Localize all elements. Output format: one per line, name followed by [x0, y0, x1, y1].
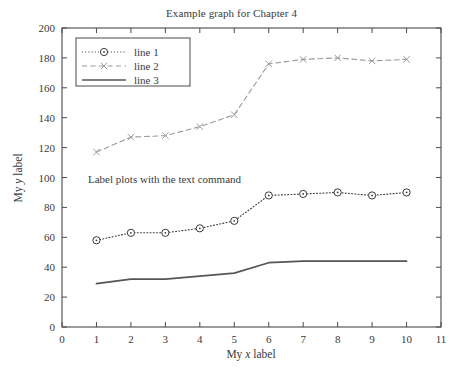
x-tick-label: 5 [232, 333, 238, 345]
series-3 [96, 261, 406, 283]
y-tick-label: 20 [44, 291, 56, 303]
legend-label: line 2 [134, 60, 159, 72]
x-tick-label: 4 [197, 333, 203, 345]
y-tick-label: 80 [44, 201, 56, 213]
y-tick-label: 60 [44, 231, 56, 243]
data-series-layer [93, 55, 410, 284]
x-tick-label: 10 [401, 333, 413, 345]
y-tick-label: 180 [39, 52, 56, 64]
y-tick-label: 0 [50, 321, 56, 333]
legend-label: line 3 [134, 74, 159, 86]
y-tick-label: 120 [39, 142, 56, 154]
x-tick-label: 3 [163, 333, 169, 345]
y-axis-tick-labels: 020406080100120140160180200 [39, 22, 56, 333]
plot-area: 01234567891011 0204060801001201401601802… [0, 0, 463, 369]
x-tick-label: 8 [335, 333, 341, 345]
y-axis-title: My y label [12, 153, 25, 202]
x-axis-title: My x label [226, 348, 275, 361]
y-tick-label: 200 [39, 22, 56, 34]
x-tick-label: 2 [128, 333, 134, 345]
plot-annotation: Label plots with the text command [88, 173, 242, 185]
x-tick-label: 6 [266, 333, 272, 345]
chart-figure: Example graph for Chapter 4 012345678910… [0, 0, 463, 369]
y-tick-label: 100 [39, 172, 56, 184]
y-tick-label: 140 [39, 112, 56, 124]
y-tick-label: 160 [39, 82, 56, 94]
chart-legend[interactable]: line 1line 2line 3 [76, 38, 190, 86]
x-tick-label: 1 [94, 333, 100, 345]
x-axis-tick-labels: 01234567891011 [59, 333, 446, 345]
x-tick-label: 11 [436, 333, 447, 345]
x-tick-label: 9 [369, 333, 375, 345]
series-1 [93, 189, 410, 244]
y-tick-label: 40 [44, 261, 56, 273]
legend-label: line 1 [134, 46, 159, 58]
x-tick-label: 7 [300, 333, 306, 345]
x-tick-label: 0 [59, 333, 65, 345]
